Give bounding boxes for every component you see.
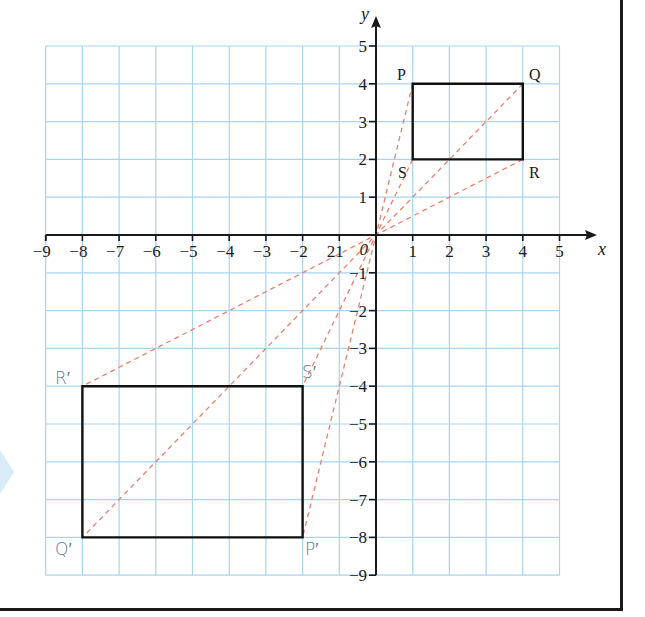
x-tick-label: 1 <box>408 242 417 261</box>
y-tick-label: −5 <box>349 415 367 434</box>
y-tick-label: −7 <box>349 491 368 510</box>
y-tick-label: −9 <box>349 566 367 585</box>
x-tick-label: −7 <box>106 242 125 261</box>
vertex-label-p-prime: P′ <box>305 539 318 559</box>
y-tick-label: 5 <box>359 37 368 56</box>
x-tick-label: −2 <box>290 242 308 261</box>
x-tick-label: 21 <box>327 242 344 261</box>
y-tick-label: −8 <box>349 528 367 547</box>
coordinate-grid: −9−8−7−6−5−4−3−2211234554321−1−2−3−4−5−6… <box>0 0 645 617</box>
y-tick-label: 4 <box>359 75 368 94</box>
x-tick-label: −6 <box>143 242 161 261</box>
origin-label: 0 <box>360 240 369 259</box>
y-tick-label: −1 <box>349 264 367 283</box>
x-tick-label: −5 <box>179 242 197 261</box>
x-tick-label: 3 <box>482 242 491 261</box>
vertex-label-s-prime: S′ <box>302 362 316 382</box>
y-tick-label: −6 <box>349 453 367 472</box>
vertex-label-s: S <box>398 164 407 181</box>
x-axis-label: x <box>597 239 606 259</box>
frame-border-bottom <box>0 608 623 611</box>
axes <box>46 16 597 575</box>
vertex-label-q: Q <box>529 66 541 83</box>
vertex-label-r-prime: R′ <box>55 368 70 388</box>
y-tick-label: 1 <box>359 188 368 207</box>
x-tick-label: 2 <box>445 242 454 261</box>
y-tick-label: −4 <box>349 377 368 396</box>
enlargement-diagram: −9−8−7−6−5−4−3−2211234554321−1−2−3−4−5−6… <box>0 0 645 617</box>
x-tick-label: 5 <box>555 242 564 261</box>
y-axis-label: y <box>359 4 369 24</box>
vertex-labels: PQRSR′S′Q′P′ <box>55 66 541 559</box>
vertex-label-r: R <box>529 164 540 181</box>
x-tick-label: 4 <box>519 242 528 261</box>
y-tick-label: −2 <box>349 302 367 321</box>
y-tick-label: −3 <box>349 339 367 358</box>
arrow-marker-icon <box>0 450 14 494</box>
x-tick-label: −8 <box>69 242 87 261</box>
x-tick-label: −9 <box>33 242 51 261</box>
vertex-label-p: P <box>397 66 406 83</box>
x-tick-label: −4 <box>216 242 235 261</box>
vertex-label-q-prime: Q′ <box>55 539 72 559</box>
frame-border-right <box>620 0 623 611</box>
y-tick-label: 3 <box>359 113 368 132</box>
y-tick-label: 2 <box>359 150 368 169</box>
x-tick-label: −3 <box>253 242 271 261</box>
